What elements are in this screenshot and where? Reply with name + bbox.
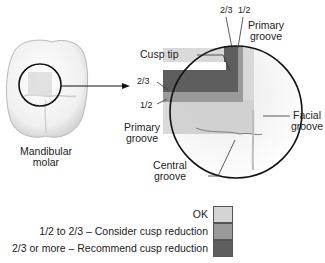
primary-groove-top-line2: groove <box>246 31 286 42</box>
legend-label-consider: 1/2 to 2/3 – Consider cusp reduction <box>39 225 208 237</box>
tooth-label-line2: molar <box>6 157 86 168</box>
legend: OK 1/2 to 2/3 – Consider cusp reduction … <box>0 205 325 263</box>
legend-label-ok: OK <box>193 208 208 220</box>
legend-swatch-consider <box>213 223 233 240</box>
legend-swatch-recommend <box>213 240 233 257</box>
cusp-tip-label: Cusp tip <box>140 49 179 60</box>
mandibular-molar-icon <box>7 40 88 137</box>
one-half-top-label: 1/2 <box>238 5 251 16</box>
primary-groove-left-label: Primary groove <box>122 122 162 144</box>
primary-groove-left-line2: groove <box>122 133 162 144</box>
facial-groove-line2: groove <box>290 121 324 132</box>
facial-groove-label: Facial groove <box>290 110 324 132</box>
one-half-left-label: 1/2 <box>140 100 153 111</box>
legend-swatch-ok <box>213 206 233 223</box>
central-groove-line2: groove <box>150 171 190 182</box>
two-thirds-left-label: 2/3 <box>137 76 150 87</box>
central-groove-label: Central groove <box>150 160 190 182</box>
two-thirds-top-label: 2/3 <box>220 5 233 16</box>
legend-label-recommend: 2/3 or more – Recommend cusp reduction <box>12 242 208 254</box>
primary-groove-top-label: Primary groove <box>246 20 286 42</box>
tooth-label: Mandibular molar <box>6 146 86 168</box>
